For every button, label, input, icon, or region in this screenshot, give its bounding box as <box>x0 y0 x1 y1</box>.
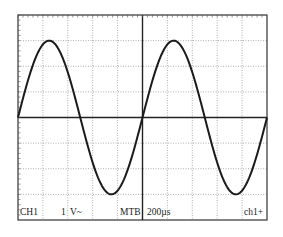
volts-per-div-value: 1 <box>61 206 66 218</box>
trigger-indicator: ch1+ <box>244 206 263 218</box>
timebase-label: MTB <box>120 206 141 218</box>
time-per-div-value: 200µs <box>147 206 170 218</box>
channel-label: CH1 <box>20 206 38 218</box>
coupling-indicator: V~ <box>70 206 82 218</box>
oscilloscope-screen <box>0 0 283 237</box>
